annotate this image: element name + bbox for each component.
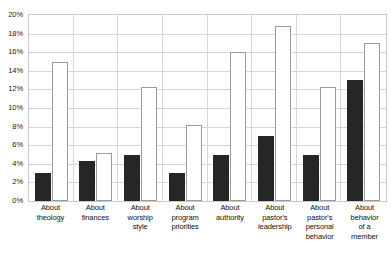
y-axis-tick-label: 14% <box>8 65 23 74</box>
x-axis-label-line: behavior <box>306 232 334 241</box>
x-axis-label: Aboutprogrampriorities <box>163 203 208 253</box>
x-axis-label-line: About <box>220 203 239 212</box>
bar-series2 <box>52 62 68 202</box>
x-axis-label: Aboutpastor'spersonalbehavior <box>297 203 342 253</box>
x-axis-label-line: About <box>355 203 374 212</box>
y-axis-tick-label: 8% <box>12 121 23 130</box>
bar-group <box>74 15 119 201</box>
x-axis-label-line: priorities <box>171 222 198 231</box>
x-axis-label-line: About <box>176 203 195 212</box>
x-axis-label-line: About <box>265 203 284 212</box>
bar-group <box>252 15 297 201</box>
y-axis-tick-label: 12% <box>8 84 23 93</box>
x-axis-label-line: worship <box>128 213 153 222</box>
bar-group <box>29 15 74 201</box>
x-axis-label-line: member <box>351 232 378 241</box>
x-axis-label-line: behavior <box>351 213 379 222</box>
bar-group <box>341 15 386 201</box>
bar-series2 <box>186 125 202 201</box>
y-axis-tick-label: 2% <box>12 177 23 186</box>
y-axis-tick-label: 6% <box>12 140 23 149</box>
x-axis-label-line: About <box>131 203 150 212</box>
x-axis-labels: AbouttheologyAboutfinancesAboutworshipst… <box>28 203 387 253</box>
bar-group <box>297 15 342 201</box>
bar-series2 <box>364 43 380 201</box>
x-axis-label: Aboutauthority <box>208 203 253 253</box>
bar-group <box>163 15 208 201</box>
y-axis: 20%18%16%14%12%10%8%6%4%2%0% <box>0 8 26 206</box>
bar-series2 <box>141 87 157 201</box>
y-axis-tick-label: 16% <box>8 47 23 56</box>
bar-group <box>208 15 253 201</box>
bar-series2 <box>320 87 336 201</box>
x-axis-label: Aboutbehaviorof amember <box>342 203 387 253</box>
x-axis-label-line: About <box>310 203 329 212</box>
x-axis-label-line: of a <box>359 222 371 231</box>
plot-area <box>28 14 387 202</box>
bar-series1 <box>35 173 51 201</box>
bar-series1 <box>347 80 363 201</box>
bar-group <box>118 15 163 201</box>
x-axis-label-line: style <box>133 222 148 231</box>
x-axis-label-line: About <box>41 203 60 212</box>
x-axis-label: Aboutpastor'sleadership <box>252 203 297 253</box>
x-axis-label: Abouttheology <box>28 203 73 253</box>
x-axis-label-line: program <box>171 213 198 222</box>
bar-series1 <box>303 155 319 202</box>
bar-series1 <box>169 173 185 201</box>
x-axis-label-line: pastor's <box>262 213 287 222</box>
bar-series1 <box>124 155 140 202</box>
y-axis-tick-label: 20% <box>8 10 23 19</box>
y-axis-tick-label: 0% <box>12 196 23 205</box>
bar-series1 <box>258 136 274 201</box>
x-axis-label: Aboutfinances <box>73 203 118 253</box>
x-axis-label-line: finances <box>82 213 109 222</box>
bar-series2 <box>230 52 246 201</box>
bar-series2 <box>96 153 112 201</box>
bars-layer <box>29 15 386 201</box>
y-axis-tick-label: 4% <box>12 158 23 167</box>
x-axis-label-line: About <box>86 203 105 212</box>
x-axis-label-line: personal <box>306 222 334 231</box>
x-axis-label-line: leadership <box>258 222 292 231</box>
x-axis-label: Aboutworshipstyle <box>118 203 163 253</box>
x-axis-label-line: pastor's <box>307 213 332 222</box>
bar-series1 <box>213 155 229 202</box>
bar-series2 <box>275 26 291 201</box>
bar-series1 <box>79 161 95 201</box>
y-axis-tick-label: 10% <box>8 103 23 112</box>
x-axis-label-line: theology <box>37 213 65 222</box>
y-axis-tick-label: 18% <box>8 28 23 37</box>
bar-chart: 20%18%16%14%12%10%8%6%4%2%0% Abouttheolo… <box>0 0 391 253</box>
x-axis-label-line: authority <box>216 213 244 222</box>
